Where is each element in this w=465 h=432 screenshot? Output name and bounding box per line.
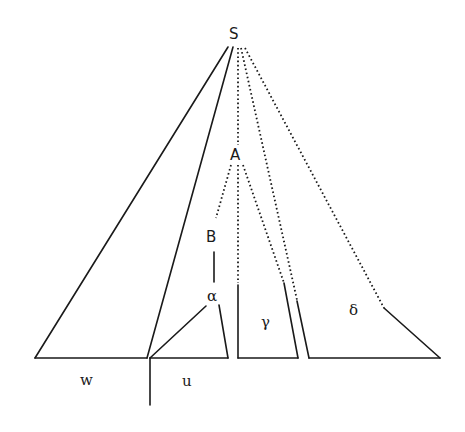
edge-s-to-delta-dotted: [245, 48, 384, 308]
node-label-a: A: [230, 146, 241, 164]
node-label-b: B: [206, 228, 216, 246]
derivation-tree-diagram: S A B α γ δ w u: [0, 0, 465, 432]
subtree-label-delta: δ: [349, 301, 358, 319]
yield-label-w: w: [80, 371, 93, 389]
yield-label-u: u: [182, 372, 192, 390]
edge-s-left-outer: [35, 47, 228, 358]
subtree-label-gamma: γ: [261, 313, 270, 331]
edge-a-to-gamma-dotted: [243, 165, 284, 283]
edge-delta-right: [384, 308, 440, 358]
edge-delta-left: [297, 301, 309, 358]
edge-alpha-right: [219, 305, 228, 358]
edge-a-to-b-dotted: [216, 165, 231, 218]
node-label-s: S: [229, 25, 239, 43]
subtree-label-alpha: α: [207, 287, 217, 305]
edge-s-to-gamma-right-dotted: [241, 48, 297, 300]
